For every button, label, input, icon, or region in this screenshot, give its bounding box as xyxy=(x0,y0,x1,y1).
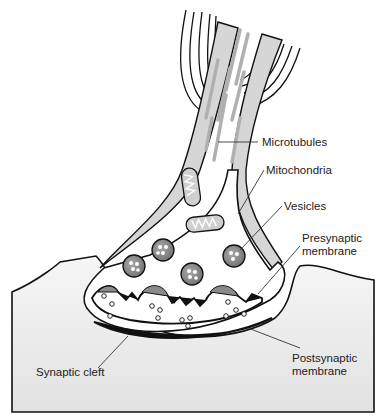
label-presynaptic-line1: Presynaptic xyxy=(302,232,362,245)
synapse-diagram: Microtubules Mitochondria Vesicles Presy… xyxy=(0,0,380,420)
label-postsynaptic-line1: Postsynaptic xyxy=(292,352,357,365)
label-microtubules: Microtubules xyxy=(262,136,327,149)
label-presynaptic-line2: membrane xyxy=(302,245,357,258)
label-synaptic-cleft: Synaptic cleft xyxy=(36,366,104,379)
label-vesicles: Vesicles xyxy=(284,200,326,213)
label-mitochondria: Mitochondria xyxy=(266,164,332,177)
label-postsynaptic-line2: membrane xyxy=(292,365,347,378)
